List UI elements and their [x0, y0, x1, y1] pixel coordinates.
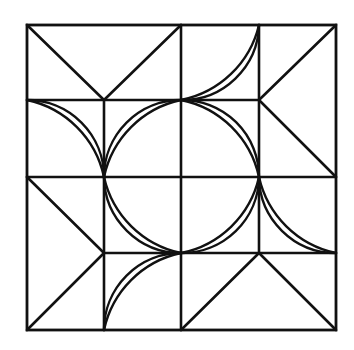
arc-outer: [104, 100, 181, 177]
arc-outer: [104, 253, 181, 330]
arc-outer: [181, 25, 259, 100]
caret-motif-bottom: [181, 253, 336, 330]
arc-inner: [181, 100, 259, 177]
arc-outer: [27, 100, 104, 177]
arc-inner: [104, 100, 181, 177]
v-motif-top: [27, 25, 181, 100]
arc-inner: [27, 100, 104, 177]
arc-outer: [181, 177, 259, 253]
quilt-diagram: [0, 0, 354, 350]
chevron-motif-left: [27, 177, 104, 330]
arc-inner: [104, 253, 181, 330]
arc-outer: [259, 177, 336, 253]
quilt-pattern-canvas: [0, 0, 354, 350]
chevron-motif-right: [259, 25, 336, 177]
arc-outer: [104, 177, 181, 253]
arc-outer: [181, 100, 259, 177]
